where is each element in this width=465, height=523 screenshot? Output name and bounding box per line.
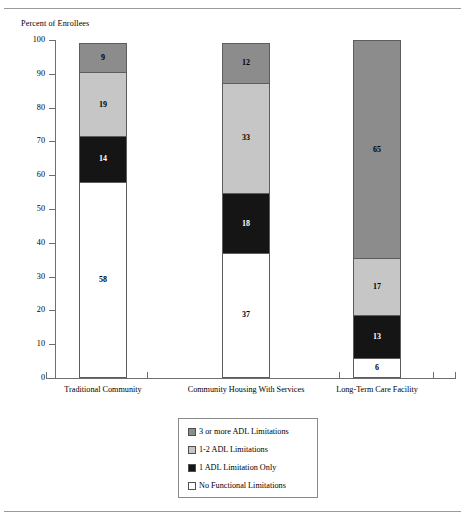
y-tick-label-100: 100 xyxy=(19,36,45,44)
legend-item[interactable]: 1 ADL Limitation Only xyxy=(188,463,276,472)
y-axis-title: Percent of Enrollees xyxy=(21,19,89,28)
bar-3[interactable]: 6517136 xyxy=(353,40,401,378)
legend-swatch-icon xyxy=(188,482,196,490)
x-tick-5 xyxy=(455,372,456,379)
bar-segment[interactable]: 19 xyxy=(79,72,127,136)
legend-swatch-icon xyxy=(188,464,196,472)
y-tick-label-70: 70 xyxy=(19,137,45,145)
bar-segment-value: 12 xyxy=(223,59,269,67)
bar-segment[interactable]: 37 xyxy=(222,253,270,378)
legend-swatch-icon xyxy=(188,446,196,454)
category-label-3: Long-Term Care Facility xyxy=(336,385,418,394)
bar-segment-value: 14 xyxy=(80,155,126,163)
bar-segment-value: 65 xyxy=(354,146,400,154)
y-tick-label-40: 40 xyxy=(19,239,45,247)
legend-item[interactable]: No Functional Limitations xyxy=(188,481,286,490)
bar-segment[interactable]: 14 xyxy=(79,136,127,183)
legend-label: 3 or more ADL Limitations xyxy=(199,427,289,436)
bar-segment[interactable]: 58 xyxy=(79,182,127,378)
y-tick-label-90: 90 xyxy=(19,70,45,78)
legend-label: No Functional Limitations xyxy=(199,481,286,490)
y-tick-label-60: 60 xyxy=(19,171,45,179)
bar-segment-value: 37 xyxy=(223,311,269,319)
bar-2[interactable]: 12331837 xyxy=(222,43,270,378)
bar-segment[interactable]: 12 xyxy=(222,43,270,84)
legend-item[interactable]: 1-2 ADL Limitations xyxy=(188,445,268,454)
legend-label: 1 ADL Limitation Only xyxy=(199,463,276,472)
y-tick-label-50: 50 xyxy=(19,205,45,213)
bar-1[interactable]: 9191458 xyxy=(79,43,127,378)
bar-segment-value: 18 xyxy=(223,220,269,228)
bar-segment-value: 13 xyxy=(354,333,400,341)
bar-segment-value: 33 xyxy=(223,134,269,142)
y-tick-label-30: 30 xyxy=(19,273,45,281)
legend-item[interactable]: 3 or more ADL Limitations xyxy=(188,427,289,436)
bar-segment[interactable]: 6 xyxy=(353,358,401,378)
bar-segment-value: 19 xyxy=(80,101,126,109)
legend-swatch-icon xyxy=(188,428,196,436)
category-label-1: Traditional Community xyxy=(64,385,141,394)
bar-segment-value: 17 xyxy=(354,283,400,291)
legend: 3 or more ADL Limitations1-2 ADL Limitat… xyxy=(178,418,318,498)
bar-segment[interactable]: 33 xyxy=(222,83,270,195)
x-tick-0 xyxy=(46,372,47,379)
bar-segment-value: 9 xyxy=(80,54,126,62)
y-tick-label-0: 0 xyxy=(19,374,45,382)
plot-area: 9191458123318376517136 xyxy=(55,40,455,378)
stacked-bar-chart: Percent of Enrollees 1009080706050403020… xyxy=(0,0,465,523)
y-tick-0 xyxy=(49,378,55,379)
legend-label: 1-2 ADL Limitations xyxy=(199,445,268,454)
bar-segment[interactable]: 17 xyxy=(353,258,401,315)
y-tick-label-80: 80 xyxy=(19,104,45,112)
category-label-2: Community Housing With Services xyxy=(188,385,305,394)
bar-segment-value: 58 xyxy=(80,276,126,284)
y-tick-label-10: 10 xyxy=(19,340,45,348)
x-axis-line xyxy=(46,378,455,379)
bar-segment-value: 6 xyxy=(354,364,400,372)
bar-segment[interactable]: 13 xyxy=(353,315,401,359)
bar-segment[interactable]: 18 xyxy=(222,193,270,254)
bar-segment[interactable]: 65 xyxy=(353,40,401,260)
y-tick-label-20: 20 xyxy=(19,306,45,314)
bar-segment[interactable]: 9 xyxy=(79,43,127,73)
